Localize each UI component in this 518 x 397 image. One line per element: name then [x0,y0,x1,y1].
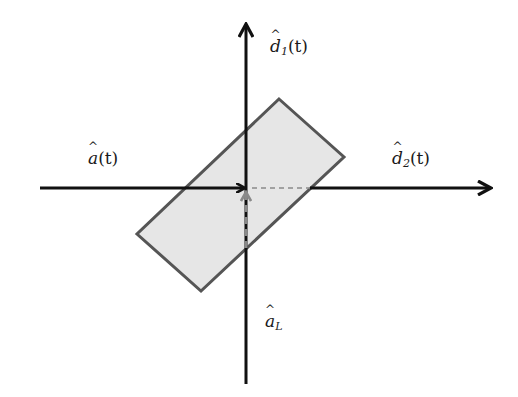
label-d2-subscript: 2 [403,157,410,170]
label-d2-arg: (t) [410,148,430,168]
label-a-of-t: a(t) [88,150,118,167]
label-a-L: aL [265,313,282,332]
label-d1-base: d [270,38,281,55]
label-d2-base: d [392,150,403,167]
label-a-L-subscript: L [275,320,282,333]
label-d1-subscript: 1 [281,45,288,58]
label-d1-of-t: d1(t) [270,38,308,57]
label-a-L-base: a [265,313,275,330]
diagram-canvas [0,0,518,397]
label-d1-arg: (t) [288,36,308,56]
rotated-rectangle [137,99,344,291]
label-a-of-t-arg: (t) [98,148,118,168]
label-d2-of-t: d2(t) [392,150,430,169]
label-a-of-t-base: a [88,150,98,167]
